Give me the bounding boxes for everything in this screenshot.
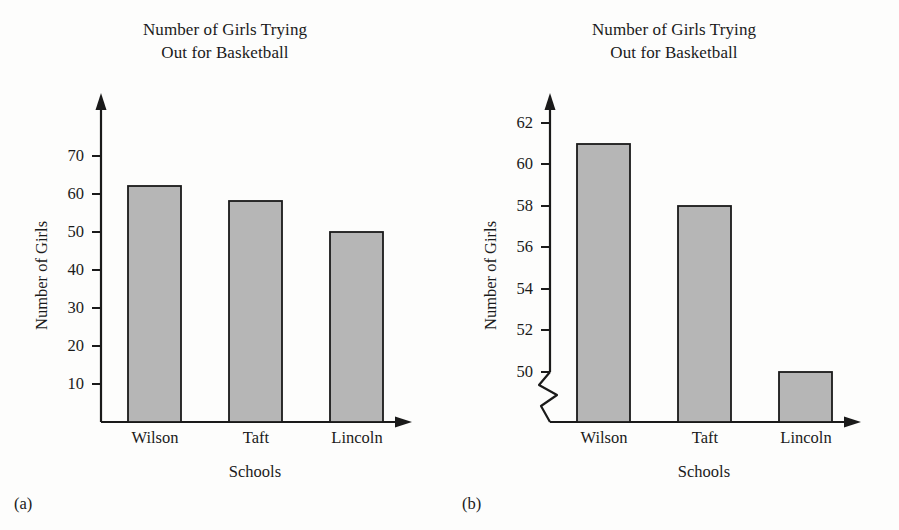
x-tick-label-a-lincoln: Lincoln — [316, 428, 398, 448]
y-tick-label-a-70: 70 — [44, 146, 84, 166]
figure-page: Number of Girls Trying Out for Basketbal… — [0, 0, 899, 530]
x-axis-label-a: Schools — [165, 462, 345, 482]
y-tick-marks-a — [92, 156, 101, 384]
y-axis-break-zigzag-b — [539, 372, 557, 422]
y-tick-label-b-56: 56 — [493, 237, 533, 257]
y-axis-arrowhead-b — [545, 93, 556, 110]
plot-area-b — [449, 0, 899, 470]
bar-a-lincoln — [330, 232, 383, 422]
panel-sublabel-a: (a) — [14, 494, 32, 514]
x-tick-label-a-taft: Taft — [215, 428, 297, 448]
y-tick-label-b-54: 54 — [493, 279, 533, 299]
x-axis-label-b: Schools — [614, 462, 794, 482]
y-tick-label-b-62: 62 — [493, 113, 533, 133]
x-tick-label-a-wilson: Wilson — [114, 428, 196, 448]
y-tick-label-a-30: 30 — [44, 298, 84, 318]
panel-sublabel-b: (b) — [462, 494, 481, 514]
x-axis-arrowhead-a — [395, 417, 412, 428]
y-tick-label-a-20: 20 — [44, 336, 84, 356]
y-tick-label-a-10: 10 — [44, 374, 84, 394]
bar-b-taft — [678, 206, 731, 422]
y-tick-label-a-40: 40 — [44, 260, 84, 280]
y-tick-label-b-52: 52 — [493, 320, 533, 340]
chart-panel-b: Number of Girls Trying Out for Basketbal… — [449, 0, 899, 530]
y-tick-label-a-60: 60 — [44, 184, 84, 204]
x-tick-label-b-lincoln: Lincoln — [765, 428, 847, 448]
y-tick-label-a-50: 50 — [44, 222, 84, 242]
bar-a-taft — [229, 201, 282, 422]
chart-panel-a: Number of Girls Trying Out for Basketbal… — [0, 0, 450, 530]
y-tick-label-b-50: 50 — [493, 362, 533, 382]
y-tick-label-b-60: 60 — [493, 154, 533, 174]
bar-b-lincoln — [779, 372, 832, 422]
y-tick-marks-b — [541, 123, 550, 372]
x-tick-label-b-taft: Taft — [664, 428, 746, 448]
bar-b-wilson — [577, 144, 630, 422]
bar-a-wilson — [128, 186, 181, 422]
x-tick-label-b-wilson: Wilson — [563, 428, 645, 448]
y-axis-arrowhead-a — [96, 93, 107, 110]
y-tick-label-b-58: 58 — [493, 196, 533, 216]
x-axis-arrowhead-b — [844, 417, 861, 428]
